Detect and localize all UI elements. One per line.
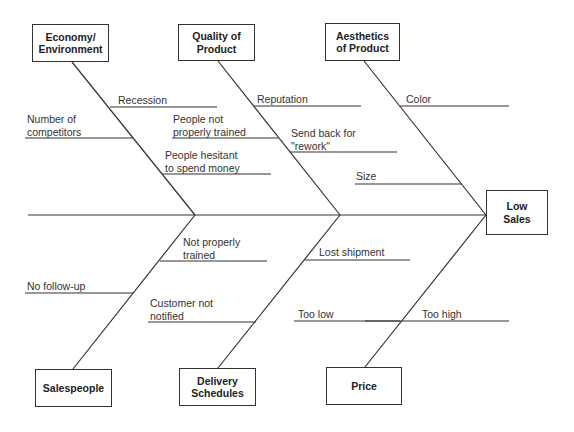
category-box-quality: Quality of Product (178, 24, 255, 61)
bone-aesthetics (364, 61, 486, 215)
cause-recession: Recession (118, 94, 167, 107)
cause-lost-shipment: Lost shipment (319, 246, 384, 259)
cause-reputation: Reputation (257, 93, 308, 106)
effect-box-low-sales: Low Sales (486, 190, 548, 235)
cause-people-hesitant: People hesitant to spend money (165, 149, 240, 174)
fishbone-diagram: Low Sales Economy/ Environment Quality o… (0, 0, 574, 432)
cause-too-low: Too low (298, 308, 334, 321)
cause-too-high: Too high (422, 308, 462, 321)
bone-price (365, 215, 486, 367)
cause-send-back-rework: Send back for "rework" (291, 127, 356, 152)
cause-not-properly-trained: Not properly trained (183, 236, 240, 261)
category-box-economy: Economy/ Environment (32, 24, 109, 62)
cause-lines (25, 106, 509, 322)
cause-number-of-competitors: Number of competitors (27, 113, 81, 138)
cause-color: Color (406, 93, 431, 106)
category-box-aesthetics: Aesthetics of Product (325, 23, 400, 61)
category-box-salespeople: Salespeople (35, 369, 112, 407)
category-box-price: Price (326, 367, 402, 405)
cause-customer-not-notified: Customer not notified (150, 297, 213, 322)
cause-size: Size (356, 170, 376, 183)
cause-no-follow-up: No follow-up (27, 280, 85, 293)
bone-salespeople (73, 215, 195, 369)
cause-people-not-trained: People not properly trained (173, 113, 246, 138)
category-box-delivery: Delivery Schedules (179, 368, 256, 406)
